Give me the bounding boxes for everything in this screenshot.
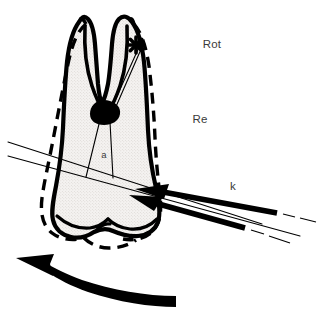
- furcation-blob-icon: [90, 100, 120, 125]
- label-rotation: Rot: [203, 38, 222, 50]
- tooth-biomechanics-figure: Rot Re k a: [0, 0, 320, 316]
- label-force: k: [230, 180, 236, 192]
- diagram-canvas: Rot Re k a: [0, 0, 320, 316]
- label-distance: a: [101, 149, 107, 160]
- label-resistance: Re: [192, 113, 207, 125]
- asterisk-marker-icon: [128, 37, 144, 53]
- rotation-arrow-icon: [16, 254, 176, 307]
